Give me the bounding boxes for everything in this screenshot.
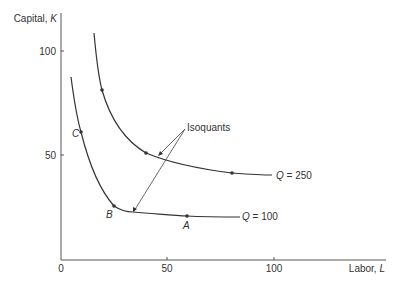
y-tick-label-50: 50 bbox=[45, 150, 57, 161]
point-q250-1 bbox=[100, 88, 104, 92]
point-a bbox=[185, 214, 189, 218]
y-tick-label-100: 100 bbox=[39, 46, 56, 57]
point-b bbox=[112, 204, 116, 208]
x-tick-label-100: 100 bbox=[266, 263, 283, 274]
point-b-label: B bbox=[106, 209, 113, 220]
axes bbox=[61, 13, 386, 260]
isoquant-q250 bbox=[94, 33, 272, 175]
point-q250-2 bbox=[144, 151, 148, 155]
point-c bbox=[79, 130, 83, 134]
arrow-to-q100 bbox=[134, 129, 185, 211]
isoquant-chart: Capital, K Labor, L 100 50 0 50 100 C B … bbox=[0, 0, 399, 289]
y-axis-label: Capital, K bbox=[14, 13, 59, 24]
q250-label: Q = 250 bbox=[276, 170, 312, 181]
x-tick-label-0: 0 bbox=[58, 263, 64, 274]
point-a-label: A bbox=[182, 220, 190, 231]
isoquant-q100 bbox=[71, 77, 240, 217]
q100-label: Q = 100 bbox=[242, 211, 278, 222]
x-axis-label: Labor, L bbox=[349, 263, 385, 274]
annotation-arrows bbox=[133, 129, 185, 212]
isoquants-annotation: Isoquants bbox=[187, 122, 230, 133]
arrow-to-q250 bbox=[159, 129, 185, 155]
point-q250-3 bbox=[230, 171, 234, 175]
x-tick-label-50: 50 bbox=[161, 263, 173, 274]
point-c-label: C bbox=[72, 128, 80, 139]
